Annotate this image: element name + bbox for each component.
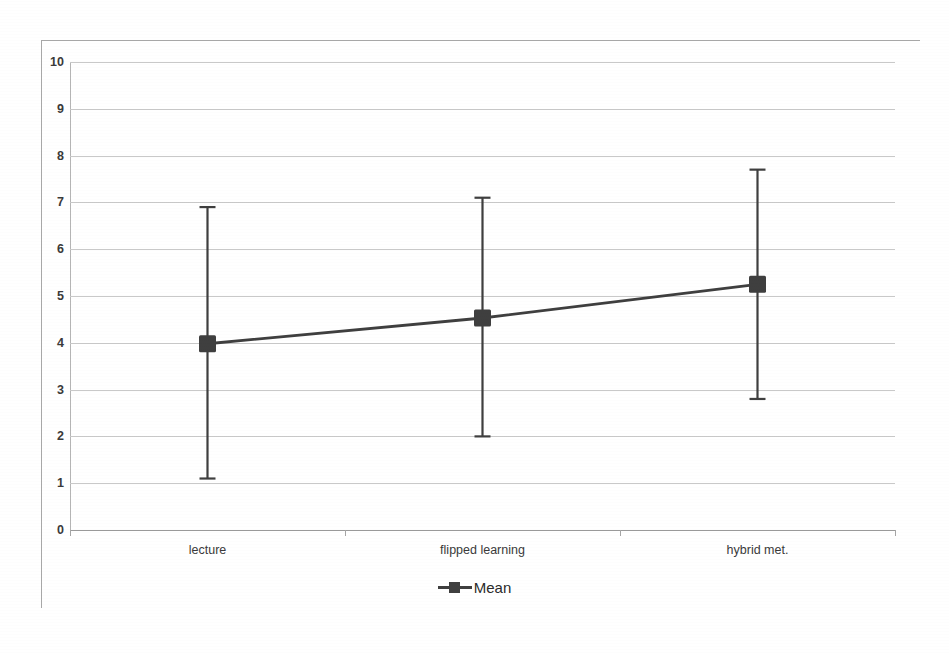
data-point-marker-1	[474, 309, 491, 326]
chart-legend: Mean	[0, 575, 949, 599]
x-tick-0	[70, 530, 71, 536]
y-tick-label-0: 0	[38, 524, 64, 537]
x-tick-3	[895, 530, 896, 536]
legend-item-mean: Mean	[438, 580, 512, 595]
y-tick-label-7: 7	[38, 196, 64, 209]
x-tick-2	[620, 530, 621, 536]
chart-frame-top-border	[41, 40, 920, 41]
x-axis-ticks	[70, 530, 895, 538]
x-tick-label-1: flipped learning	[440, 544, 525, 557]
y-tick-label-5: 5	[38, 290, 64, 303]
x-axis-tick-labels: lectureflipped learninghybrid met.	[70, 544, 895, 564]
x-tick-label-2: hybrid met.	[727, 544, 789, 557]
y-tick-label-2: 2	[38, 430, 64, 443]
y-tick-label-10: 10	[38, 56, 64, 69]
y-tick-label-1: 1	[38, 477, 64, 490]
data-point-marker-0	[199, 335, 216, 352]
y-tick-label-6: 6	[38, 243, 64, 256]
series-mean	[70, 62, 895, 530]
legend-line-marker-icon	[438, 580, 472, 594]
y-axis-tick-labels: 012345678910	[36, 62, 64, 530]
x-tick-1	[345, 530, 346, 536]
x-tick-label-0: lecture	[189, 544, 227, 557]
y-tick-label-4: 4	[38, 337, 64, 350]
data-point-marker-2	[749, 276, 766, 293]
chart-container: 012345678910 lectureflipped learninghybr…	[0, 0, 949, 653]
plot-area	[70, 62, 895, 530]
legend-item-label: Mean	[474, 580, 512, 595]
y-tick-label-8: 8	[38, 149, 64, 162]
y-tick-label-3: 3	[38, 383, 64, 396]
y-tick-label-9: 9	[38, 103, 64, 116]
